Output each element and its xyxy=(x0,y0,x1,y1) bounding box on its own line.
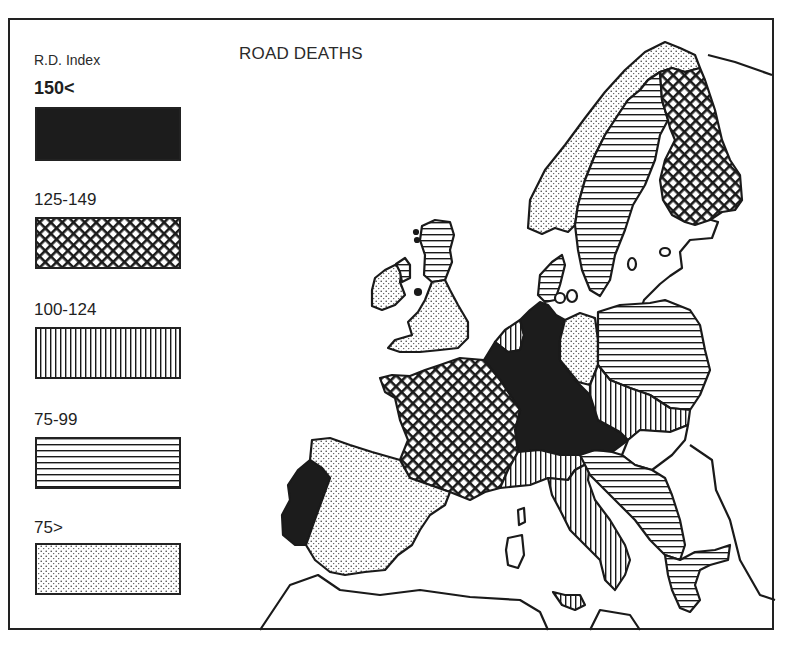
baltic-coast-line xyxy=(640,216,718,316)
ussr-border-line xyxy=(708,55,772,75)
region-sicily xyxy=(553,592,585,610)
legend-swatch-vertical-lines xyxy=(36,328,180,378)
europe-map xyxy=(0,0,786,649)
legend-swatch-solid-black xyxy=(36,108,180,160)
libya-coast-line xyxy=(590,610,640,630)
legend-swatch-horizontal-lines xyxy=(36,438,180,488)
legend-swatch-crosshatch xyxy=(36,218,180,268)
island-zealand xyxy=(555,293,565,303)
island-danish xyxy=(567,290,577,302)
island-hebrides xyxy=(414,230,418,234)
island-gotland xyxy=(628,258,636,270)
island-man xyxy=(415,289,421,295)
island-hebrides xyxy=(415,238,419,242)
north-africa-coast-line xyxy=(260,575,548,630)
region-finland xyxy=(660,68,742,225)
island-corsica xyxy=(518,508,525,525)
region-scotland xyxy=(420,220,454,282)
legend-swatch-dotted xyxy=(36,544,180,594)
island-sardinia xyxy=(506,535,524,568)
turkey-coast-line xyxy=(690,445,775,600)
island-aland xyxy=(660,248,670,256)
